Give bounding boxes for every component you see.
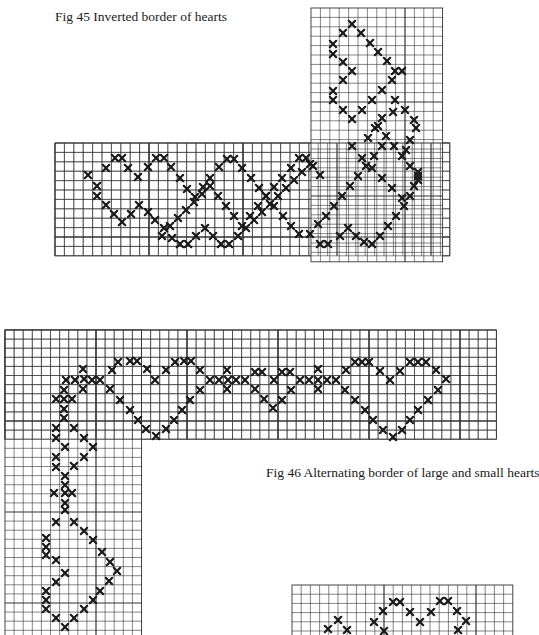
fig45-chart xyxy=(55,8,450,262)
fig47-partial-chart xyxy=(292,585,513,635)
